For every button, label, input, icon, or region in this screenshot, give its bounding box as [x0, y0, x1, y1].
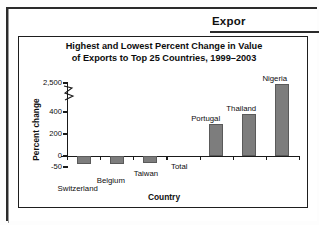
y-axis-tick — [63, 82, 68, 83]
figure-box: Highest and Lowest Percent Change in Val… — [18, 36, 308, 208]
bar — [110, 156, 124, 164]
y-axis-tick-label: 0 — [22, 151, 62, 160]
bar-label: Total — [171, 162, 187, 171]
x-axis-tick — [166, 156, 167, 160]
x-axis-tick — [266, 156, 267, 160]
bar-label: Switzerland — [58, 184, 98, 193]
scanned-page: Expor Highest and Lowest Percent Change … — [0, 0, 319, 225]
bar — [209, 124, 223, 156]
y-axis-tick-label: -50 — [22, 162, 62, 171]
bar — [77, 156, 91, 164]
x-axis-label: Country — [19, 192, 309, 202]
x-axis-tick — [299, 156, 300, 160]
y-axis-tick-label: 400 — [22, 107, 62, 116]
bar-label: Taiwan — [134, 169, 158, 178]
bar-label: Thailand — [226, 104, 256, 113]
page-header: Expor — [200, 14, 319, 32]
plot-area: Percent change Country 2,5004002000-50 S… — [19, 37, 309, 209]
bar — [242, 114, 256, 156]
y-axis-tick-label: 2,500 — [22, 78, 62, 87]
y-axis-tick — [63, 111, 68, 112]
bar-label: Belgium — [97, 176, 125, 185]
x-axis-line — [61, 156, 299, 157]
x-axis-tick — [67, 156, 68, 160]
x-axis-tick — [100, 156, 101, 160]
axis-break-zigzag-icon — [63, 85, 77, 101]
x-axis-tick — [233, 156, 234, 160]
bar-label: Portugal — [191, 114, 220, 123]
y-axis-tick-labels: 2,5004002000-50 — [19, 37, 62, 209]
y-axis-tick — [63, 166, 68, 167]
page-header-title: Expor — [212, 15, 246, 27]
y-axis-tick-label: 200 — [22, 129, 62, 138]
bar — [143, 156, 157, 163]
bar — [275, 84, 289, 156]
y-axis-tick — [63, 133, 68, 134]
header-rule — [210, 31, 319, 33]
bar-label: Nigeria — [262, 74, 287, 83]
x-axis-tick — [133, 156, 134, 160]
x-axis-tick — [200, 156, 201, 160]
